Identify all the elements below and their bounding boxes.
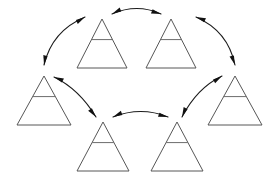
triangle-bottom-right-outline [151,122,203,171]
arrow-left-to-top-left-head-start [43,55,47,65]
arrow-top-left-to-top-right-head-end [151,9,161,14]
triangle-bottom-right[interactable] [151,122,203,171]
arrow-bottom-right-to-bottom-left-head-end [113,111,122,117]
triangle-cycle-diagram [0,0,272,181]
arrow-top-left-to-top-right[interactable] [112,7,161,14]
arrow-top-right-to-right-path [196,17,235,65]
triangle-right-outline [208,76,262,125]
arrow-left-to-top-left[interactable] [43,17,85,65]
triangle-right[interactable] [208,76,262,125]
arrow-bottom-left-to-left[interactable] [54,77,96,117]
diagram-canvas [0,0,272,181]
arrow-bottom-left-to-left-head-start [88,108,96,117]
arrow-left-to-top-left-head-end [76,17,85,24]
arrow-top-left-to-top-right-head-start [112,7,121,14]
arrows-layer [43,7,235,117]
triangle-left-outline [17,76,71,125]
arrow-right-to-bottom-right-head-start [213,76,222,83]
arrow-top-right-to-right[interactable] [196,17,235,65]
triangle-bottom-left[interactable] [77,122,129,171]
triangle-top-left-outline [77,19,127,68]
triangle-top-left[interactable] [77,19,127,68]
triangle-left[interactable] [17,76,71,125]
arrow-top-right-to-right-head-end [230,55,235,65]
arrow-left-to-top-left-path [44,17,85,65]
arrow-bottom-right-to-bottom-left-head-start [158,113,168,117]
triangle-top-right-outline [146,19,196,68]
triangle-top-right[interactable] [146,19,196,68]
triangle-bottom-left-outline [77,122,129,171]
arrow-bottom-right-to-bottom-left[interactable] [113,111,168,117]
